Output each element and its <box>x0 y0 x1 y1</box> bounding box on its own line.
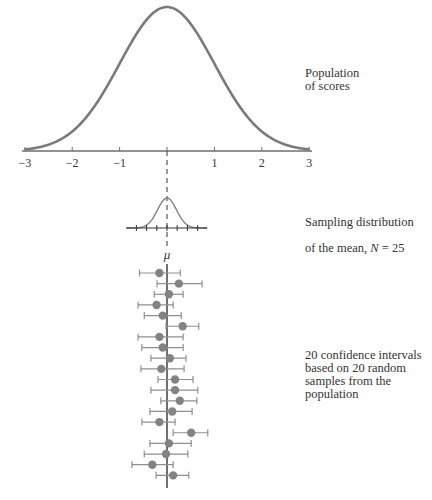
confidence-interval-row <box>138 333 183 341</box>
population-tick-label: −1 <box>113 156 126 170</box>
confidence-intervals <box>132 269 208 480</box>
population-tick-label: −3 <box>18 156 31 170</box>
population-normal-curve <box>25 7 309 149</box>
confidence-interval-row <box>158 375 193 383</box>
confidence-interval-row <box>142 343 183 351</box>
sample-mean-dot <box>155 418 163 426</box>
confidence-interval-row <box>173 429 208 437</box>
confidence-interval-row <box>154 290 183 298</box>
confidence-interval-row <box>151 354 186 362</box>
population-tick-label: 1 <box>211 156 217 170</box>
sample-mean-dot <box>159 311 167 319</box>
sampling-label-n-symbol: N <box>370 241 378 255</box>
sample-mean-dot <box>175 279 183 287</box>
confidence-interval-row <box>166 322 199 330</box>
confidence-interval-row <box>157 279 202 287</box>
sample-mean-dot <box>168 407 176 415</box>
population-tick-label: 3 <box>306 156 312 170</box>
sample-mean-dot <box>176 397 184 405</box>
confidence-interval-row <box>151 386 198 394</box>
sample-mean-dot <box>171 375 179 383</box>
sampling-distribution-label: Sampling distribution of the mean, N = 2… <box>305 203 414 255</box>
confidence-intervals-label: 20 confidence intervals based on 20 rand… <box>305 349 422 401</box>
confidence-interval-row <box>138 301 173 309</box>
sample-mean-dot <box>157 365 165 373</box>
sampling-label-line2-prefix: of the mean, <box>305 241 370 255</box>
mu-label: μ <box>163 247 171 262</box>
sample-mean-dot <box>162 450 170 458</box>
population-label: Population of scores <box>305 67 359 93</box>
sample-mean-dot <box>165 290 173 298</box>
sample-mean-dot <box>155 333 163 341</box>
population-tick-label: 2 <box>259 156 265 170</box>
sampling-label-n-value: = 25 <box>379 241 405 255</box>
confidence-interval-row <box>144 311 181 319</box>
confidence-interval-row <box>140 269 181 277</box>
confidence-interval-row <box>141 365 184 373</box>
population-curve-group: −3−2−1123 <box>18 7 312 170</box>
sampling-label-line1: Sampling distribution <box>305 215 414 229</box>
sample-mean-dot <box>178 322 186 330</box>
sample-mean-dot <box>187 429 195 437</box>
sample-mean-dot <box>159 343 167 351</box>
confidence-interval-row <box>156 471 189 479</box>
sample-mean-dot <box>169 471 177 479</box>
confidence-interval-row <box>142 418 175 426</box>
sample-mean-dot <box>166 354 174 362</box>
population-tick-label: −2 <box>66 156 79 170</box>
sample-mean-dot <box>152 301 160 309</box>
confidence-interval-row <box>161 397 197 405</box>
sample-mean-dot <box>165 439 173 447</box>
confidence-interval-row <box>150 439 191 447</box>
sample-mean-dot <box>155 269 163 277</box>
sample-mean-dot <box>148 461 156 469</box>
confidence-interval-row <box>144 450 188 458</box>
sample-mean-dot <box>171 386 179 394</box>
confidence-interval-row <box>150 407 192 415</box>
